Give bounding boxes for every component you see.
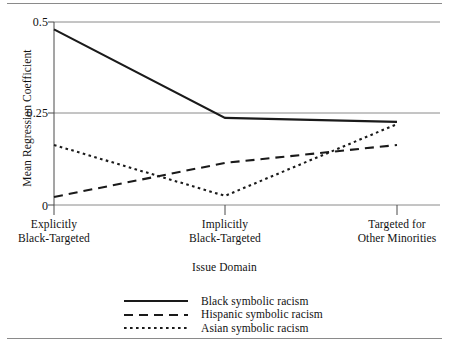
legend-key-dashed-line-icon [122,308,190,322]
y-tick-label-0.25: 0.25 [8,106,48,121]
x-tick-label-1-line1: Explicitly [0,218,119,232]
legend-key-solid-line-icon [122,294,190,308]
legend-key-dotted-line-icon [122,321,190,335]
series-line-hispanic-symbolic-racism [54,145,397,197]
legend-label-hispanic-symbolic-racism: Hispanic symbolic racism [190,308,323,320]
x-axis-label: Issue Domain [0,261,449,273]
series-line-black-symbolic-racism [54,29,397,122]
legend-label-asian-symbolic-racism: Asian symbolic racism [190,322,309,334]
x-tick-label-implicitly-black-targeted: Implicitly Black-Targeted [160,218,290,245]
series-line-asian-symbolic-racism [54,124,397,196]
figure-container: Mean Regression Coefficient 0.5 0.25 0 E… [0,0,449,349]
chart-legend: Black symbolic racism Hispanic symbolic … [122,294,382,335]
y-tick-label-0.5: 0.5 [8,15,48,30]
legend-item-asian-symbolic-racism: Asian symbolic racism [122,321,382,335]
y-tick-label-0: 0 [8,199,48,214]
legend-item-hispanic-symbolic-racism: Hispanic symbolic racism [122,308,382,322]
legend-item-black-symbolic-racism: Black symbolic racism [122,294,382,308]
x-tick-label-2-line2: Black-Targeted [160,232,290,246]
x-tick-label-targeted-for-other-minorities: Targeted for Other Minorities [332,218,449,245]
x-tick-label-1-line2: Black-Targeted [0,232,119,246]
x-tick-label-3-line2: Other Minorities [332,232,449,246]
legend-label-black-symbolic-racism: Black symbolic racism [190,295,309,307]
x-tick-label-3-line1: Targeted for [332,218,449,232]
x-tick-label-2-line1: Implicitly [160,218,290,232]
x-tick-label-explicitly-black-targeted: Explicitly Black-Targeted [0,218,119,245]
